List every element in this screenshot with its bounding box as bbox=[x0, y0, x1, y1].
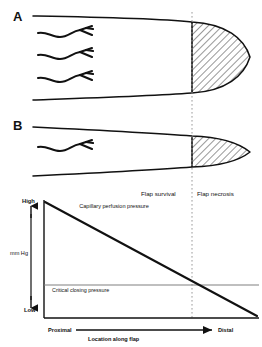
panel-label-b: B bbox=[13, 119, 22, 132]
vessel-branch bbox=[38, 48, 93, 59]
panel-a-vessels bbox=[38, 26, 93, 82]
y-axis-low-label: Low bbox=[24, 307, 36, 314]
x-axis-distal-label: Distal bbox=[218, 327, 233, 334]
capillary-perfusion-pressure-label: Capillary perfusion pressure bbox=[78, 203, 150, 211]
vessel-branch bbox=[38, 71, 93, 82]
x-axis-proximal-label: Proximal bbox=[48, 327, 72, 334]
panel-label-a: A bbox=[13, 10, 22, 23]
y-axis-title: mm Hg bbox=[10, 250, 28, 257]
critical-closing-pressure-label: Critical closing pressure bbox=[52, 287, 109, 294]
figure-canvas bbox=[0, 0, 262, 347]
vessel-branch bbox=[38, 26, 93, 37]
panel-b-flap-diagram bbox=[33, 127, 250, 176]
panel-a-necrosis-region bbox=[192, 22, 250, 93]
panel-a-flap-diagram bbox=[33, 16, 250, 100]
x-axis-title: Location along flap bbox=[88, 336, 139, 343]
y-axis-high-label: High bbox=[22, 198, 35, 205]
perfusion-pressure-graph bbox=[31, 200, 259, 330]
flap-necrosis-label: Flap necrosis bbox=[197, 190, 234, 197]
capillary-perfusion-pressure-line bbox=[45, 202, 257, 316]
flap-perfusion-figure: A B Flap survival Flap necrosis High Low… bbox=[0, 0, 262, 347]
panel-b-vessels bbox=[38, 140, 93, 151]
flap-survival-label: Flap survival bbox=[141, 190, 176, 197]
vessel-branch bbox=[38, 140, 93, 151]
panel-b-necrosis-region bbox=[192, 136, 250, 167]
